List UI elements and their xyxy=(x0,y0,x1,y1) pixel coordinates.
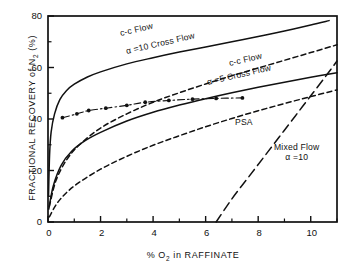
y-axis-title-suffix: (%) xyxy=(27,35,37,54)
psa-data-point xyxy=(191,97,195,101)
y-tick-label: 80 xyxy=(22,10,42,21)
x-tick-label: 0 xyxy=(42,227,56,238)
x-tick-label: 4 xyxy=(147,227,161,238)
mixed-flow-label-line1: Mixed Flow xyxy=(274,142,319,152)
x-tick-label: 10 xyxy=(305,227,319,238)
x-axis-title-prefix: % O xyxy=(147,250,166,260)
psa-data-point xyxy=(214,97,218,101)
curve-c-c-flow-alpha-5 xyxy=(49,73,337,209)
psa-data-markers xyxy=(61,96,245,120)
y-tick-label: 20 xyxy=(22,165,42,176)
y-tick-label: 0 xyxy=(22,216,42,227)
psa-data-point xyxy=(143,100,147,104)
x-axis-title-suffix: in RAFFINATE xyxy=(170,250,239,260)
psa-label: PSA xyxy=(235,117,253,127)
psa-data-point xyxy=(104,106,108,110)
curve-alpha-10-cross-flow xyxy=(49,45,337,207)
x-tick-label: 8 xyxy=(252,227,266,238)
figure-container: FRACTIONAL RECOVERY of N2 (%) % O2 in RA… xyxy=(0,0,355,280)
y-tick-label: 60 xyxy=(22,62,42,73)
data-curves xyxy=(49,21,337,222)
x-axis-title: % O2 in RAFFINATE xyxy=(48,250,338,262)
psa-data-point xyxy=(61,116,65,120)
psa-data-point xyxy=(167,99,171,103)
curve-psa xyxy=(62,98,242,118)
y-axis-title-prefix: FRACTIONAL RECOVERY of N xyxy=(27,58,37,201)
psa-data-point xyxy=(241,96,245,100)
psa-data-point xyxy=(125,103,129,107)
x-tick-label: 2 xyxy=(95,227,109,238)
curve-c-c-flow-alpha-10 xyxy=(49,21,330,197)
mixed-flow-label-line2: α =10 xyxy=(274,152,319,162)
y-tick-label: 40 xyxy=(22,113,42,124)
mixed-flow-label: Mixed Flowα =10 xyxy=(274,142,319,162)
x-tick-label: 6 xyxy=(200,227,214,238)
psa-label-line1: PSA xyxy=(235,117,253,127)
psa-data-point xyxy=(75,112,79,116)
psa-data-point xyxy=(87,109,91,113)
y-axis-title-sub: 2 xyxy=(32,54,39,58)
